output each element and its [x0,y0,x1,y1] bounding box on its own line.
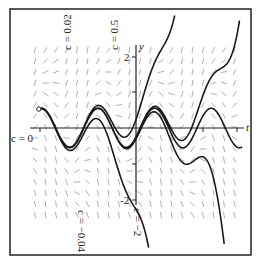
curve-label-c-neg0.04: c = −0.04 [76,210,88,253]
curve-label-c-0.5: c = 0.5 [108,19,120,50]
slope-field-figure: y t 2 -2 c = 0.02 c = 0.5 c = 0 c = −0.0… [0,0,257,267]
curve-label-c-0: c = 0 [11,132,34,144]
curve-label-c-neg2: c = −2 [132,208,144,236]
t-axis-label: t [246,121,250,133]
y-axis-label: y [138,40,144,52]
slope-field [32,47,238,218]
curve-label-c-0.02: c = 0.02 [61,14,73,50]
initial-point-marker [37,107,41,111]
y-tick-label-2: 2 [124,51,130,63]
